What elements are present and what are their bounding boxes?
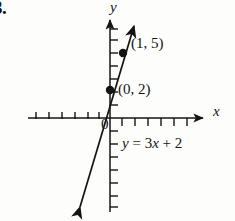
origin-label: 0 — [101, 117, 109, 132]
problem-number: 3. — [0, 0, 6, 17]
equation-lhs: y — [122, 135, 129, 151]
x-axis-ticks-positive — [122, 118, 187, 126]
point-label-one-five: (1, 5) — [131, 36, 164, 51]
coordinate-plane-drawing — [0, 0, 235, 221]
graph-figure: 3. y x 0 (1, 5) (0, 2) y = 3x + 2 — [0, 0, 235, 221]
equation-variable: x — [152, 135, 159, 151]
y-axis-label: y — [110, 0, 117, 15]
data-point-one-five — [119, 49, 127, 57]
y-axis-ticks-negative — [110, 131, 118, 207]
equation-label: y = 3x + 2 — [122, 136, 182, 151]
equation-equals: = — [132, 135, 140, 151]
equation-plus: + — [163, 135, 171, 151]
data-point-y-intercept — [106, 86, 114, 94]
point-label-y-intercept: (0, 2) — [118, 82, 151, 97]
x-axis-label: x — [213, 104, 220, 119]
equation-intercept: 2 — [175, 135, 183, 151]
